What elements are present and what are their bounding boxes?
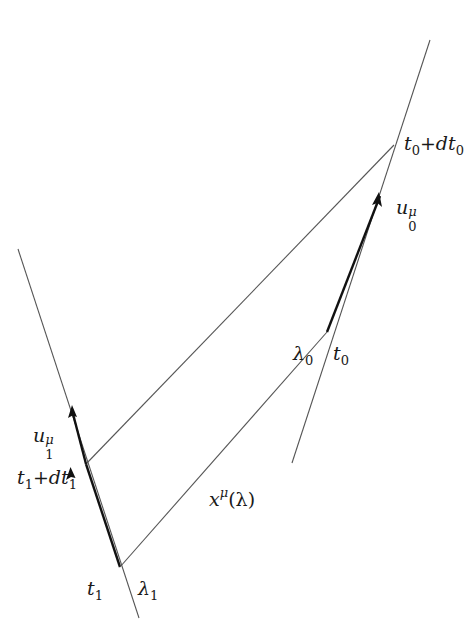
label-t1-plus-dt1: t1+dt1 xyxy=(17,468,77,491)
label-t0-plus-dt0: t0+dt0 xyxy=(404,134,464,157)
u1-arrow xyxy=(70,464,86,466)
worldline-0-thick-segment xyxy=(327,196,380,332)
worldline-1-thick-segment xyxy=(86,464,120,567)
label-u0: uμ0 xyxy=(396,198,418,217)
label-t1: t1 xyxy=(87,579,103,602)
u1-thick-upper xyxy=(72,410,86,464)
label-lambda0: λ0 xyxy=(293,344,313,367)
label-lambda1: λ1 xyxy=(138,579,158,602)
label-x-lambda: xμ(λ) xyxy=(209,486,255,509)
spacetime-diagram xyxy=(0,0,473,629)
label-u1: uμ1 xyxy=(33,426,55,445)
ray-upper xyxy=(86,145,394,464)
worldline-0 xyxy=(292,40,430,463)
label-t0: t0 xyxy=(333,344,349,367)
